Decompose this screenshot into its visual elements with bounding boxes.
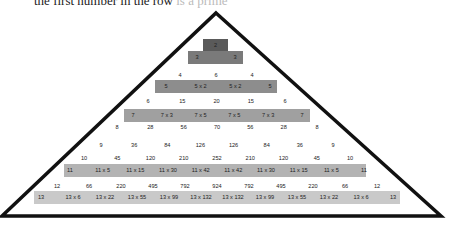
pascal-cell-r6-0: 6 [146, 98, 149, 104]
pascal-cell-r13-1: 13 x 6 [65, 191, 80, 204]
pascal-cell-r13-5: 13 x 132 [190, 191, 211, 204]
pascal-cell-r11-5: 11 x 42 [224, 164, 242, 177]
pascal-cell-r8-2: 56 [181, 124, 187, 130]
pascal-cell-r12-8: 220 [308, 183, 317, 189]
pascal-cell-r8-6: 8 [315, 124, 318, 130]
pascal-cell-r6-2: 20 [213, 98, 219, 104]
pascal-cell-r11-4: 11 x 42 [192, 164, 210, 177]
pascal-cell-r13-4: 13 x 99 [160, 191, 178, 204]
pascal-cell-r10-0: 10 [81, 155, 87, 161]
pascal-cell-r10-7: 45 [314, 155, 320, 161]
pascal-cell-r11-7: 11 x 15 [290, 164, 308, 177]
pascal-cell-r12-1: 66 [86, 183, 92, 189]
pascal-cell-r8-4: 56 [247, 124, 253, 130]
pascal-cell-r4-0: 4 [178, 72, 181, 78]
pascal-cell-r5-2: 5 x 2 [229, 80, 241, 93]
pascal-cell-r7-2: 7 x 5 [195, 109, 207, 122]
pascal-cell-r6-4: 6 [283, 98, 286, 104]
pascal-cell-r13-3: 13 x 55 [128, 191, 146, 204]
pascal-cell-r3-0: 3 [195, 51, 198, 64]
pascal-cell-r6-1: 15 [179, 98, 185, 104]
band-row-13 [34, 191, 400, 204]
pascal-cell-r3-1: 3 [233, 51, 236, 64]
pascal-cell-r4-1: 6 [214, 72, 217, 78]
pascal-cell-r13-0: 13 [38, 191, 44, 204]
pascal-cell-r13-9: 13 x 22 [320, 191, 338, 204]
pascal-cell-r10-4: 252 [212, 155, 221, 161]
pascal-cell-r11-0: 11 [67, 164, 73, 177]
pascal-cell-r4-2: 4 [250, 72, 253, 78]
pascal-cell-r8-5: 28 [281, 124, 287, 130]
pascal-cell-r13-8: 13 x 55 [288, 191, 306, 204]
pascal-cell-r10-5: 210 [246, 155, 255, 161]
pascal-cell-r13-6: 13 x 132 [222, 191, 243, 204]
pascal-cell-r9-2: 84 [164, 142, 170, 148]
pascal-cell-r9-5: 84 [264, 142, 270, 148]
band-row-7 [124, 109, 310, 122]
pascal-cell-r5-0: 5 [164, 80, 167, 93]
pascal-cell-r9-1: 36 [131, 142, 137, 148]
pascal-cell-r9-7: 9 [331, 142, 334, 148]
pascal-cell-r11-8: 11 x 5 [324, 164, 339, 177]
pascal-cell-r7-3: 7 x 5 [228, 109, 240, 122]
pascal-cell-r9-6: 36 [297, 142, 303, 148]
pascal-cell-r10-3: 210 [179, 155, 188, 161]
pascal-cell-r7-5: 7 [300, 109, 303, 122]
pascal-cell-r12-4: 792 [180, 183, 189, 189]
pascal-cell-r7-0: 7 [131, 109, 134, 122]
pascal-cell-r8-1: 28 [147, 124, 153, 130]
pascal-cell-r13-11: 13 [390, 191, 396, 204]
pascal-cell-r11-6: 11 x 30 [257, 164, 275, 177]
pascal-cell-r10-8: 10 [347, 155, 353, 161]
pascal-cell-r13-10: 13 x 6 [353, 191, 368, 204]
pascal-cell-r9-0: 9 [99, 142, 102, 148]
pascal-cell-r7-4: 7 x 3 [262, 109, 274, 122]
pascal-cell-r12-0: 12 [54, 183, 60, 189]
pascal-cell-r12-6: 792 [244, 183, 253, 189]
pascal-cell-r7-1: 7 x 3 [161, 109, 173, 122]
pascal-cell-r11-1: 11 x 5 [95, 164, 110, 177]
pascal-cell-r12-2: 220 [116, 183, 125, 189]
pascal-cell-r8-3: 70 [214, 124, 220, 130]
pascal-cell-r6-3: 15 [248, 98, 254, 104]
pascal-cell-r13-7: 13 x 99 [256, 191, 274, 204]
pascal-cell-r12-7: 495 [276, 183, 285, 189]
pascal-cell-r13-2: 13 x 22 [96, 191, 114, 204]
pascal-cell-r2-0: 2 [214, 39, 217, 52]
band-row-5 [155, 80, 277, 93]
pascal-cell-r5-1: 5 x 2 [195, 80, 207, 93]
pascal-cell-r12-3: 495 [148, 183, 157, 189]
pascal-cell-r12-9: 66 [342, 183, 348, 189]
pascal-cell-r11-2: 11 x 15 [126, 164, 144, 177]
pascal-cell-r9-3: 126 [196, 142, 205, 148]
pascal-cell-r11-3: 11 x 30 [159, 164, 177, 177]
pascal-cell-r8-0: 8 [115, 124, 118, 130]
pascal-cell-r10-2: 120 [146, 155, 155, 161]
pascal-cell-r12-5: 924 [212, 183, 221, 189]
pascal-cell-r12-10: 12 [374, 183, 380, 189]
pascal-cell-r11-9: 11 [361, 164, 367, 177]
pascal-cell-r9-4: 126 [229, 142, 238, 148]
pascal-cell-r10-1: 45 [114, 155, 120, 161]
pascal-cell-r5-3: 5 [268, 80, 271, 93]
pascal-cell-r10-6: 120 [279, 155, 288, 161]
